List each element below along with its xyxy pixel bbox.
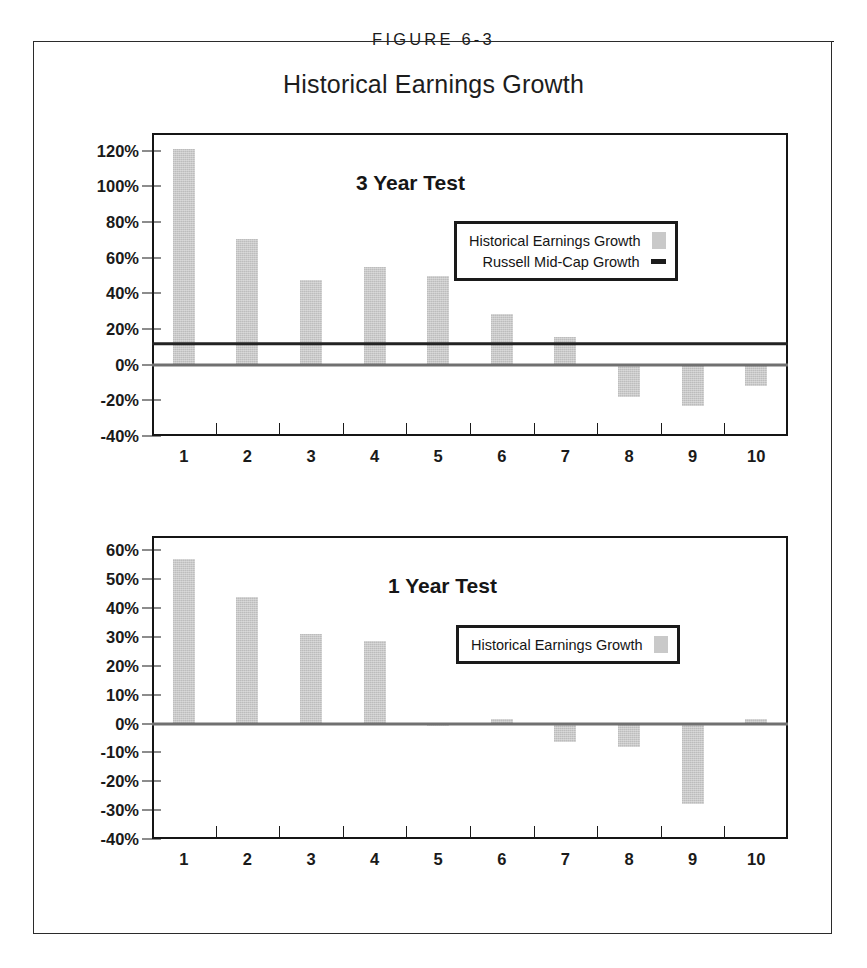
- y-axis-tick-mark: [142, 222, 161, 223]
- chart-3-year-test: 120%100%80%60%40%20%0%-20%-40%1234567891…: [88, 133, 788, 481]
- chart-subtitle-1yr: 1 Year Test: [388, 574, 497, 598]
- page-title: Historical Earnings Growth: [0, 70, 867, 99]
- x-axis-tick-label: 10: [747, 850, 765, 869]
- legend-swatch-icon: [652, 232, 666, 249]
- x-axis-tick-label: 1: [179, 850, 188, 869]
- chart-subtitle-3yr: 3 Year Test: [356, 171, 465, 195]
- x-axis-tick-mark: [406, 423, 407, 436]
- zero-baseline: [152, 722, 788, 725]
- x-axis-tick-label: 6: [497, 447, 506, 466]
- bar: [682, 724, 704, 805]
- x-axis-tick-label: 10: [747, 447, 765, 466]
- x-axis-tick-mark: [279, 826, 280, 839]
- y-axis-tick-mark: [142, 694, 161, 695]
- bar: [427, 276, 449, 365]
- x-axis-tick-mark: [406, 826, 407, 839]
- x-axis-tick-mark: [724, 826, 725, 839]
- y-axis-tick-mark: [142, 839, 161, 840]
- x-axis-tick-mark: [343, 423, 344, 436]
- x-axis-tick-label: 1: [179, 447, 188, 466]
- bar: [618, 724, 640, 747]
- x-axis-tick-label: 2: [243, 850, 252, 869]
- legend-3yr: Historical Earnings Growth Russell Mid-C…: [454, 221, 678, 281]
- bar: [300, 280, 322, 365]
- x-axis-tick-mark: [470, 423, 471, 436]
- bar: [364, 267, 386, 365]
- bar: [682, 365, 704, 406]
- y-axis-tick-mark: [142, 665, 161, 666]
- legend-swatch-icon: [654, 636, 668, 653]
- x-axis-tick-label: 3: [306, 850, 315, 869]
- y-axis-tick-mark: [142, 293, 161, 294]
- x-axis-tick-label: 7: [561, 447, 570, 466]
- legend-label-historical-earnings-growth: Historical Earnings Growth: [469, 233, 641, 249]
- x-axis-tick-mark: [470, 826, 471, 839]
- y-axis-tick-mark: [142, 637, 161, 638]
- x-axis-tick-mark: [343, 826, 344, 839]
- x-axis-tick-mark: [534, 826, 535, 839]
- x-axis-tick-label: 5: [434, 850, 443, 869]
- y-axis-tick-mark: [142, 579, 161, 580]
- bar: [364, 641, 386, 723]
- bar: [618, 365, 640, 397]
- x-axis-tick-mark: [279, 423, 280, 436]
- bar: [554, 724, 576, 743]
- x-axis-tick-label: 9: [688, 447, 697, 466]
- y-axis-tick-mark: [142, 752, 161, 753]
- y-axis-tick-mark: [142, 150, 161, 151]
- bar: [300, 634, 322, 723]
- x-axis-tick-mark: [661, 826, 662, 839]
- bar: [173, 559, 195, 723]
- x-axis-tick-label: 8: [624, 850, 633, 869]
- y-axis-tick-mark: [142, 400, 161, 401]
- y-axis-tick-mark: [142, 608, 161, 609]
- bar: [236, 597, 258, 724]
- x-axis-tick-mark: [597, 423, 598, 436]
- legend-item-russell-mid-cap-growth: Russell Mid-Cap Growth: [469, 251, 666, 272]
- x-axis-tick-label: 4: [370, 850, 379, 869]
- bar: [554, 337, 576, 365]
- benchmark-line-russell-mid-cap-growth: [152, 342, 788, 345]
- bar: [236, 239, 258, 365]
- x-axis-tick-mark: [661, 423, 662, 436]
- x-axis-tick-mark: [597, 826, 598, 839]
- x-axis-tick-mark: [724, 423, 725, 436]
- plot-area-3yr: 120%100%80%60%40%20%0%-20%-40%1234567891…: [152, 133, 788, 436]
- y-axis-tick-mark: [142, 257, 161, 258]
- x-axis-tick-label: 2: [243, 447, 252, 466]
- chart-1-year-test: 60%50%40%30%20%10%0%-10%-20%-30%-40%1234…: [88, 536, 788, 884]
- x-axis-tick-mark: [216, 826, 217, 839]
- legend-label-historical-earnings-growth: Historical Earnings Growth: [471, 637, 643, 653]
- y-axis-tick-mark: [142, 436, 161, 437]
- x-axis-tick-label: 6: [497, 850, 506, 869]
- x-axis-tick-mark: [534, 423, 535, 436]
- y-axis-tick-mark: [142, 186, 161, 187]
- y-axis-tick-mark: [142, 329, 161, 330]
- x-axis-tick-label: 5: [434, 447, 443, 466]
- zero-baseline: [152, 363, 788, 366]
- legend-line-icon: [651, 259, 666, 264]
- x-axis-tick-label: 4: [370, 447, 379, 466]
- legend-label-russell-mid-cap-growth: Russell Mid-Cap Growth: [483, 254, 640, 270]
- x-axis-tick-label: 7: [561, 850, 570, 869]
- y-axis-tick-mark: [142, 550, 161, 551]
- legend-1yr: Historical Earnings Growth: [456, 625, 680, 664]
- bar: [745, 365, 767, 386]
- y-axis-tick-mark: [142, 781, 161, 782]
- x-axis-tick-mark: [216, 423, 217, 436]
- x-axis-tick-label: 3: [306, 447, 315, 466]
- bar: [173, 149, 195, 365]
- legend-item-historical-earnings-growth: Historical Earnings Growth: [471, 634, 668, 655]
- x-axis-tick-label: 9: [688, 850, 697, 869]
- x-axis-tick-label: 8: [624, 447, 633, 466]
- legend-item-historical-earnings-growth: Historical Earnings Growth: [469, 230, 666, 251]
- bar: [491, 314, 513, 365]
- y-axis-tick-mark: [142, 810, 161, 811]
